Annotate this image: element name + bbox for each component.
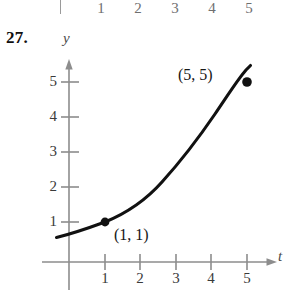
x-tick-label-3: 3 bbox=[167, 270, 185, 287]
graph-figure: y t 5 4 3 2 1 1 2 3 4 5 (5, 5) (1, 1) bbox=[0, 0, 290, 290]
y-axis-label: y bbox=[63, 30, 70, 47]
y-tick-label-2: 2 bbox=[43, 178, 57, 195]
y-tick-label-4: 4 bbox=[43, 108, 57, 125]
y-tick-label-3: 3 bbox=[43, 143, 57, 160]
x-tick-label-1: 1 bbox=[96, 270, 114, 287]
x-axis-arrow bbox=[267, 258, 278, 265]
point-label-5-5: (5, 5) bbox=[178, 66, 213, 84]
y-tick-label-5: 5 bbox=[43, 73, 57, 90]
y-axis-arrow bbox=[65, 59, 72, 70]
x-tick-label-5: 5 bbox=[238, 270, 256, 287]
curve-path bbox=[57, 66, 251, 238]
y-axis bbox=[65, 59, 72, 290]
data-point-marker-5-5 bbox=[242, 77, 252, 87]
x-axis-label: t bbox=[278, 248, 282, 265]
x-axis bbox=[42, 258, 277, 265]
y-tick-label-1: 1 bbox=[43, 213, 57, 230]
y-axis-ticks bbox=[61, 82, 79, 222]
figure-page: 1 2 3 4 5 27. bbox=[0, 0, 290, 290]
data-point-marker-1-1 bbox=[101, 218, 110, 227]
x-tick-label-2: 2 bbox=[131, 270, 149, 287]
point-label-1-1: (1, 1) bbox=[114, 226, 149, 244]
x-tick-label-4: 4 bbox=[202, 270, 220, 287]
